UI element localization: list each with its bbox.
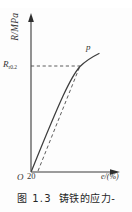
figure-caption-number: 图 1.3 bbox=[17, 193, 52, 204]
figure-caption-text: 铸铁的应力- bbox=[59, 193, 116, 204]
figure-container: R/MPa Rr0.2 p O 20 e/(%) 图 1.3铸铁的应力- bbox=[0, 0, 132, 212]
offset-construction-line bbox=[38, 66, 80, 171]
figure-caption: 图 1.3铸铁的应力- bbox=[0, 190, 132, 205]
curve-point-label-p: p bbox=[86, 43, 91, 52]
y-axis bbox=[28, 13, 34, 172]
stress-strain-curve bbox=[32, 54, 100, 172]
y-axis-arrowhead bbox=[28, 13, 34, 22]
x-axis-label: e/(%) bbox=[101, 173, 119, 181]
x-axis-tick-label: 20 bbox=[27, 172, 36, 181]
yield-strength-label: Rr0.2 bbox=[3, 60, 17, 70]
stress-strain-plot: R/MPa Rr0.2 p O 20 e/(%) bbox=[0, 0, 132, 188]
yield-strength-subscript: r0.2 bbox=[9, 64, 17, 70]
y-axis-label: R/MPa bbox=[11, 4, 21, 50]
origin-label: O bbox=[17, 173, 24, 182]
